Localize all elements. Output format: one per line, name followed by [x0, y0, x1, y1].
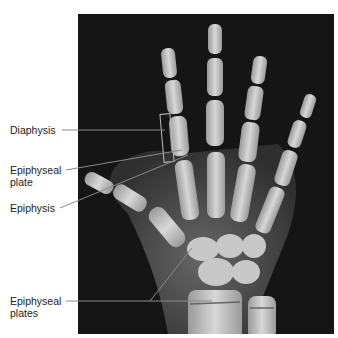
label-epiphyseal-plate: Epiphyseal plate [10, 164, 61, 188]
label-epiphyseal-plates: Epiphyseal plates [10, 295, 61, 319]
label-epiphyseal-plates-line2: plates [10, 307, 61, 319]
label-epiphysis: Epiphysis [10, 202, 55, 214]
label-epiphyseal-plate-line1: Epiphyseal [10, 164, 61, 176]
label-diaphysis-text: Diaphysis [10, 124, 56, 136]
label-epiphyseal-plates-line1: Epiphyseal [10, 295, 61, 307]
label-epiphysis-text: Epiphysis [10, 202, 55, 214]
label-epiphyseal-plate-line2: plate [10, 176, 61, 188]
label-diaphysis: Diaphysis [10, 124, 56, 136]
